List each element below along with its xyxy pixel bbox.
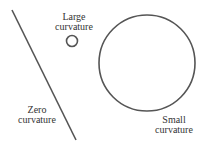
label-large-curvature: Large curvature: [54, 12, 94, 32]
label-small-curvature: Small curvature: [154, 115, 194, 135]
small-circle: [67, 36, 78, 47]
label-line: curvature: [54, 22, 94, 32]
label-line: curvature: [17, 115, 57, 125]
large-circle: [99, 15, 195, 111]
label-line: curvature: [154, 125, 194, 135]
label-zero-curvature: Zero curvature: [17, 105, 57, 125]
